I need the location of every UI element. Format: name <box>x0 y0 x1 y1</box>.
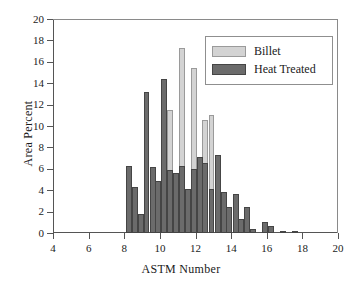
bar-heat <box>209 189 215 233</box>
x-tick-label: 10 <box>145 242 175 254</box>
x-tick <box>338 233 339 239</box>
bar-heat <box>126 166 132 233</box>
bar-heat <box>191 169 197 233</box>
bar-heat <box>173 173 179 233</box>
bar-heat <box>250 229 256 233</box>
legend-item-billet: Billet <box>212 42 326 60</box>
bar-heat <box>155 181 161 233</box>
bar-heat <box>144 92 150 233</box>
legend-swatch-heat-treated <box>212 64 246 75</box>
x-tick <box>53 233 54 239</box>
x-tick <box>89 233 90 239</box>
x-tick <box>231 233 232 239</box>
x-tick <box>124 233 125 239</box>
bar-heat <box>292 231 298 233</box>
x-tick-label: 18 <box>287 242 317 254</box>
x-tick <box>160 233 161 239</box>
x-tick-label: 20 <box>323 242 353 254</box>
legend-item-heat-treated: Heat Treated <box>212 60 326 78</box>
bar-heat <box>244 207 250 233</box>
x-axis-title: ASTM Number <box>0 262 362 277</box>
bar-heat <box>167 170 173 233</box>
legend-label-heat-treated: Heat Treated <box>254 63 316 76</box>
bar-heat <box>262 222 268 233</box>
legend-label-billet: Billet <box>254 45 281 58</box>
bar-heat <box>268 226 274 233</box>
bar-heat <box>238 219 244 233</box>
x-tick-label: 6 <box>74 242 104 254</box>
y-tick-label: 18 <box>0 35 44 46</box>
bar-heat <box>179 166 185 233</box>
x-tick-label: 16 <box>252 242 282 254</box>
x-tick-label: 12 <box>181 242 211 254</box>
bar-heat <box>280 231 286 233</box>
chart-legend: Billet Heat Treated <box>205 36 333 85</box>
y-tick-label: 0 <box>0 228 44 239</box>
x-tick <box>196 233 197 239</box>
y-axis-title: Area Percent <box>21 54 36 214</box>
x-tick-label: 8 <box>109 242 139 254</box>
x-tick-label: 4 <box>38 242 68 254</box>
chart-figure: 02468101214161820 468101214161820 Billet… <box>0 0 362 288</box>
y-tick-label: 20 <box>0 14 44 25</box>
bar-heat <box>226 207 232 233</box>
bar-heat <box>202 163 208 233</box>
bar-heat <box>132 187 138 233</box>
x-tick <box>302 233 303 239</box>
bar-heat <box>215 155 221 233</box>
x-tick <box>267 233 268 239</box>
x-tick-label: 14 <box>216 242 246 254</box>
legend-swatch-billet <box>212 46 246 57</box>
